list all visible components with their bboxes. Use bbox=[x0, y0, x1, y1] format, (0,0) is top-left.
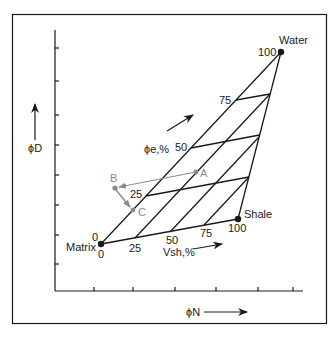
point-a-label: A bbox=[200, 167, 208, 179]
phi-e-label: ϕe,% bbox=[144, 143, 169, 155]
phi-tick-25: 25 bbox=[130, 188, 142, 200]
point-a bbox=[194, 170, 199, 175]
point-b bbox=[112, 185, 117, 190]
vsh-tick-50: 50 bbox=[166, 234, 178, 246]
crossplot-diagram: ϕD ϕN Water 100 Shale 100 Matrix 0 0 25 … bbox=[0, 0, 334, 339]
phi-tick-75: 75 bbox=[219, 94, 231, 106]
point-c-label: C bbox=[138, 206, 146, 218]
point-c bbox=[131, 208, 136, 213]
water-point bbox=[278, 49, 284, 55]
matrix-vsh-value: 0 bbox=[98, 248, 104, 260]
shale-value: 100 bbox=[228, 222, 246, 234]
matrix-point bbox=[98, 241, 104, 247]
y-axis-label-group: ϕD bbox=[28, 104, 42, 154]
x-axis-label-group: ϕN bbox=[186, 306, 247, 318]
shale-label: Shale bbox=[244, 208, 272, 220]
phi-tick-50: 50 bbox=[175, 141, 187, 153]
point-b-label: B bbox=[110, 172, 117, 184]
vsh-tick-75: 75 bbox=[200, 227, 212, 239]
figure-frame bbox=[13, 15, 327, 324]
x-axis-label: ϕN bbox=[186, 306, 200, 318]
arrow-up-right-icon bbox=[167, 115, 193, 131]
vsh-label: Vsh,% bbox=[163, 246, 195, 258]
y-axis-label: ϕD bbox=[28, 142, 42, 154]
water-value: 100 bbox=[258, 46, 276, 58]
arrow-right-icon bbox=[193, 244, 222, 249]
matrix-phi-value: 0 bbox=[92, 231, 98, 243]
abc-annotation: A B C bbox=[110, 167, 208, 218]
water-label: Water bbox=[279, 34, 308, 46]
vsh-tick-25: 25 bbox=[129, 242, 141, 254]
